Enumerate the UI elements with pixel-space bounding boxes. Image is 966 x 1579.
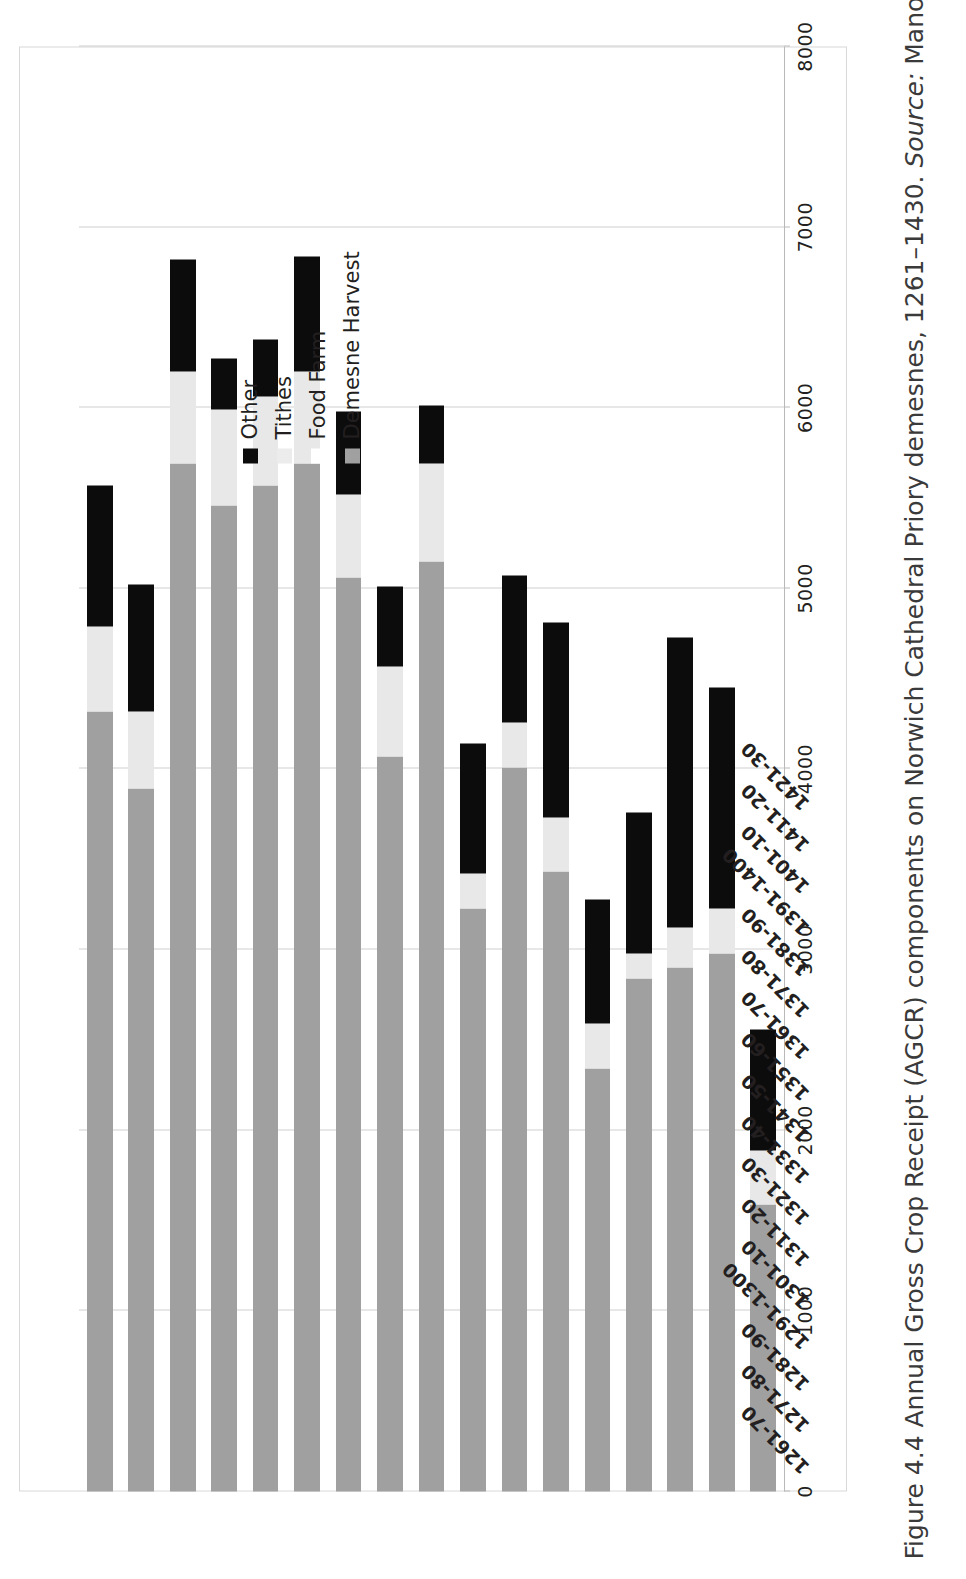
- legend-swatch-icon: [277, 448, 292, 463]
- bar-segment-tithes: [128, 711, 154, 789]
- legend-item: Food Farm: [306, 251, 330, 463]
- bar-segment-harvest: [294, 463, 320, 1491]
- legend-swatch-icon: [243, 448, 258, 463]
- bar-segment-harvest: [585, 1068, 611, 1491]
- caption-source-label: Source:: [900, 72, 929, 167]
- caption-text: Figure 4.4 Annual Gross Crop Receipt (AG…: [900, 175, 929, 1559]
- chart-figure: OtherTithesFood FarmDemesne Harvest Figu…: [0, 0, 966, 1579]
- bar-segment-other: [626, 812, 652, 953]
- bar-segment-harvest: [709, 953, 735, 1491]
- bar-segment-tithes: [377, 666, 403, 756]
- bar-segment-other: [667, 637, 693, 928]
- bar-segment-harvest: [626, 978, 652, 1491]
- bar-segment-tithes: [709, 908, 735, 953]
- bar-segment-other: [585, 899, 611, 1024]
- bar-segment-tithes: [667, 927, 693, 967]
- chart-legend: OtherTithesFood FarmDemesne Harvest: [238, 251, 364, 463]
- bar-segment-tithes: [502, 722, 528, 767]
- bar-segment-other: [502, 575, 528, 721]
- bar-segment-tithes: [626, 953, 652, 978]
- bar-segment-other: [460, 743, 486, 873]
- bar-segment-harvest: [460, 908, 486, 1491]
- bar-segment-harvest: [336, 577, 362, 1491]
- bar-segment-tithes: [585, 1023, 611, 1068]
- value-tick-4000: [784, 768, 790, 769]
- bar-segment-tithes: [543, 817, 569, 871]
- value-tick-5000: [784, 587, 790, 588]
- legend-swatch-icon: [311, 448, 326, 463]
- bar-segment-harvest: [253, 485, 279, 1491]
- legend-swatch-icon: [345, 448, 360, 463]
- bar-segment-harvest: [170, 463, 196, 1491]
- bar-segment-other: [543, 622, 569, 817]
- bar-segment-other: [170, 259, 196, 371]
- bar-segment-other: [709, 687, 735, 907]
- caption-source-value: Manorial accounts database.: [900, 0, 929, 64]
- bar-segment-tithes: [419, 463, 445, 561]
- bar-segment-harvest: [502, 767, 528, 1491]
- value-tick-7000: [784, 226, 790, 227]
- bar-segment-other: [87, 485, 113, 626]
- rotated-figure-wrapper: OtherTithesFood FarmDemesne Harvest Figu…: [0, 0, 966, 1579]
- bar-segment-other: [419, 405, 445, 463]
- bar-segment-other: [211, 359, 237, 410]
- bar-segment-harvest: [543, 871, 569, 1491]
- bar-segment-harvest: [377, 756, 403, 1491]
- value-tick-label: 5000: [794, 563, 816, 613]
- value-tick-label: 7000: [794, 201, 816, 251]
- value-tick-label: 0: [794, 1485, 816, 1498]
- bar-segment-tithes: [336, 494, 362, 577]
- bar-segment-harvest: [667, 967, 693, 1491]
- legend-label: Food Farm: [306, 330, 330, 439]
- bar-segment-other: [377, 586, 403, 665]
- bar-segment-tithes: [460, 873, 486, 907]
- legend-label: Demesne Harvest: [340, 251, 364, 439]
- value-tick-8000: [784, 45, 790, 46]
- bar-segment-harvest: [128, 788, 154, 1491]
- gridline-7000: [79, 226, 784, 227]
- bar-segment-tithes: [211, 409, 237, 505]
- gridline-8000: [79, 45, 784, 46]
- bar-segment-harvest: [87, 711, 113, 1491]
- value-tick-label: 6000: [794, 382, 816, 432]
- figure-caption: Figure 4.4 Annual Gross Crop Receipt (AG…: [900, 19, 929, 1559]
- legend-label: Other: [238, 379, 262, 439]
- legend-item: Other: [238, 251, 262, 463]
- figure-page: OtherTithesFood FarmDemesne Harvest Figu…: [0, 0, 966, 1579]
- bar-segment-tithes: [87, 626, 113, 711]
- legend-item: Demesne Harvest: [340, 251, 364, 463]
- value-tick-label: 8000: [794, 21, 816, 71]
- legend-label: Tithes: [272, 376, 296, 439]
- value-tick-0: [784, 1490, 790, 1491]
- value-tick-6000: [784, 406, 790, 407]
- bar-segment-other: [128, 584, 154, 710]
- bar-segment-tithes: [170, 371, 196, 463]
- bar-segment-harvest: [211, 505, 237, 1491]
- plot-area: [79, 46, 784, 1491]
- legend-item: Tithes: [272, 251, 296, 463]
- bar-segment-harvest: [419, 561, 445, 1491]
